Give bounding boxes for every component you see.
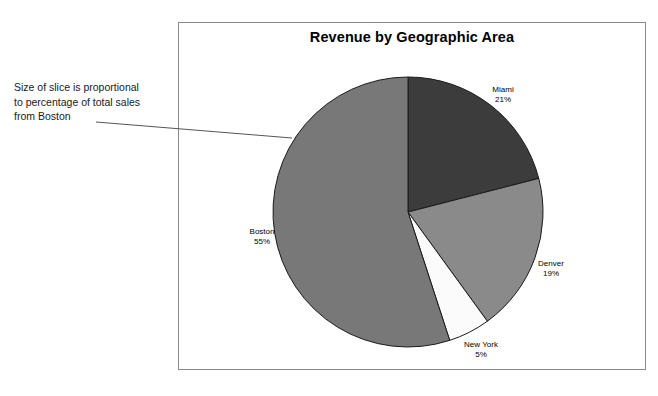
pie-label-denver-percent: 19% (521, 269, 581, 279)
pie-label-miami: Miami 21% (473, 85, 533, 105)
pie-label-miami-name: Miami (473, 85, 533, 95)
pie-label-boston: Boston 55% (232, 227, 292, 247)
pie-label-new-york-name: New York (448, 340, 514, 350)
pie-label-new-york-percent: 5% (448, 350, 514, 360)
pie-label-boston-name: Boston (232, 227, 292, 237)
chart-screenshot: Revenue by Geographic Area Size of slice… (0, 0, 658, 396)
pie-label-miami-percent: 21% (473, 95, 533, 105)
pie-label-boston-percent: 55% (232, 237, 292, 247)
annotation-line-1: Size of slice is proportional (14, 80, 189, 95)
annotation-leader-line (96, 122, 292, 138)
annotation-callout: Size of slice is proportional to percent… (14, 80, 189, 124)
pie-chart-graphic (0, 0, 658, 396)
annotation-line-2: to percentage of total sales (14, 95, 189, 110)
pie-label-new-york: New York 5% (448, 340, 514, 360)
pie-label-denver-name: Denver (521, 259, 581, 269)
annotation-line-3: from Boston (14, 109, 189, 124)
pie-label-denver: Denver 19% (521, 259, 581, 279)
